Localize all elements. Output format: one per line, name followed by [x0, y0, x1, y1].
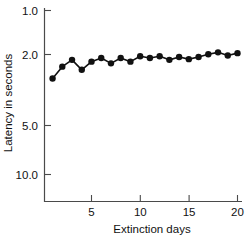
data-point: [195, 54, 201, 60]
data-point: [49, 75, 55, 81]
x-tick-label-20: 20: [231, 206, 244, 218]
data-point: [69, 57, 75, 63]
y-axis-title: Latency in seconds: [2, 54, 14, 153]
y-tick-label-2: 2.0: [22, 49, 38, 61]
data-point: [59, 63, 65, 69]
y-tick-label-3: 5.0: [22, 120, 38, 132]
y-tick-label-4: 10.0: [16, 169, 38, 181]
data-point: [147, 55, 153, 61]
data-point: [215, 49, 221, 55]
data-point: [156, 53, 162, 59]
data-point: [176, 54, 182, 60]
data-point: [88, 58, 94, 64]
data-point: [225, 52, 231, 58]
x-tick-label-5: 5: [88, 206, 94, 218]
data-point: [127, 58, 133, 64]
latency-extinction-line-chart: 1.0 2.0 5.0 10.0 5 10 15 20 Extinction d…: [0, 0, 247, 237]
data-point: [79, 67, 85, 73]
data-point: [234, 50, 240, 56]
x-tick-label-15: 15: [183, 206, 196, 218]
data-point: [166, 57, 172, 63]
x-tick-label-10: 10: [134, 206, 147, 218]
data-point: [205, 51, 211, 57]
y-tick-label-1: 1.0: [22, 5, 38, 17]
data-point: [118, 55, 124, 61]
chart-figure: 1.0 2.0 5.0 10.0 5 10 15 20 Extinction d…: [0, 0, 247, 237]
data-point: [186, 56, 192, 62]
data-point: [108, 60, 114, 66]
data-point: [137, 53, 143, 59]
data-point: [98, 55, 104, 61]
x-axis-title: Extinction days: [113, 223, 191, 235]
